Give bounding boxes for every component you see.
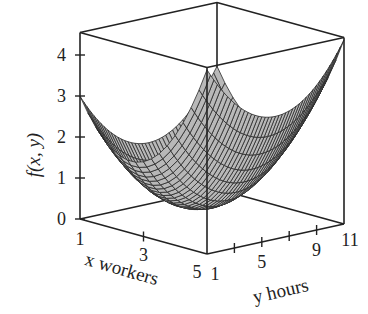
z-tick-label: 1 — [57, 168, 66, 188]
y-tick-label: 9 — [312, 240, 321, 260]
box-edge — [217, 2, 344, 37]
surface-mesh — [80, 40, 344, 210]
box-edge — [207, 37, 344, 67]
y-axis-label: y hours — [251, 274, 311, 307]
x-tick-label: 5 — [193, 262, 202, 282]
z-tick-label: 3 — [57, 86, 66, 106]
box-edge — [80, 2, 217, 32]
x-tick-label: 1 — [76, 229, 85, 249]
x-axis-label: x workers — [83, 248, 161, 289]
z-tick-label: 0 — [57, 209, 66, 229]
y-tick-label: 1 — [211, 264, 220, 284]
plot-canvas: 0123413515911 f(x, y) x workers y hours — [0, 0, 368, 314]
z-tick-label: 4 — [57, 45, 66, 65]
x-tick-label: 3 — [139, 245, 148, 265]
z-axis-label: f(x, y) — [23, 133, 45, 177]
box-edge — [207, 224, 344, 254]
y-tick-label: 5 — [257, 252, 266, 272]
z-tick-label: 2 — [57, 127, 66, 147]
box-edge — [80, 32, 207, 67]
y-tick-label: 11 — [341, 230, 358, 250]
surface-plot: 0123413515911 f(x, y) x workers y hours — [0, 0, 368, 314]
